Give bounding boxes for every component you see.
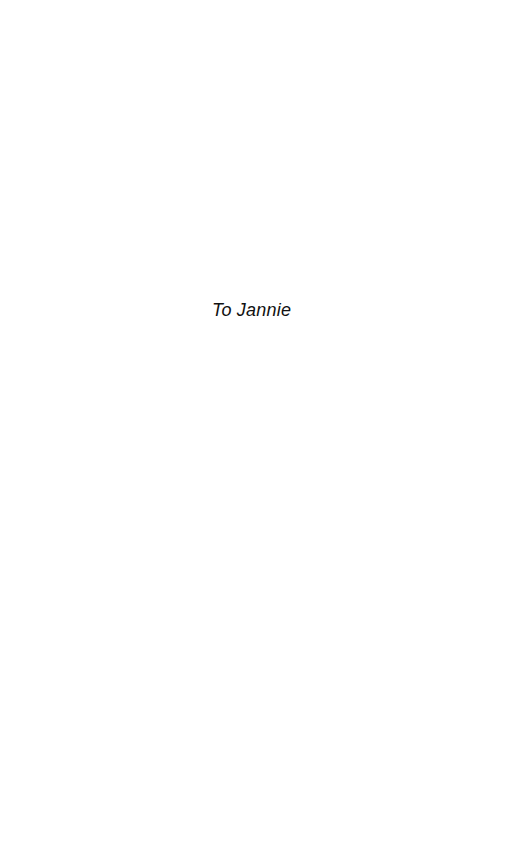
dedication-text: To Jannie [0,299,503,321]
document-page: To Jannie [0,0,521,849]
